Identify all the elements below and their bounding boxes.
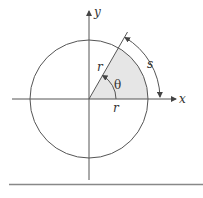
theta-label: θ [114,78,121,92]
x-axis-label: x [179,92,186,106]
arc-length-label: s [147,57,153,71]
circle-diagram: y x r r θ s [0,0,203,198]
radius-slanted-label: r [97,60,104,74]
y-axis-label: y [93,5,101,19]
radius-horizontal-label: r [113,101,120,115]
